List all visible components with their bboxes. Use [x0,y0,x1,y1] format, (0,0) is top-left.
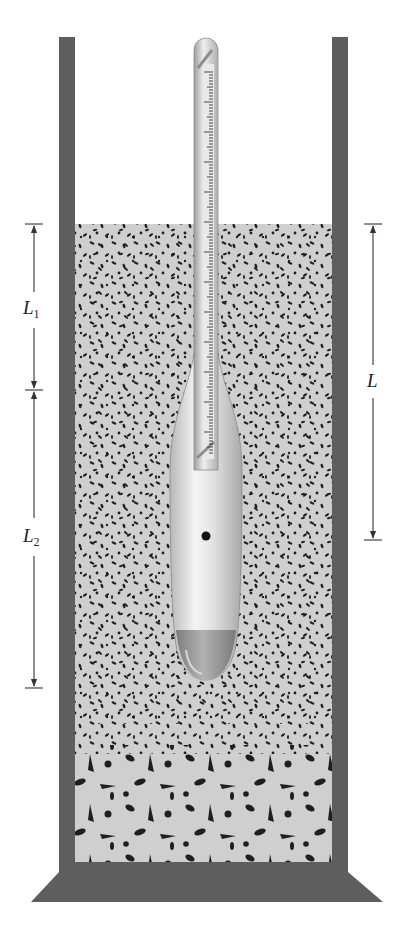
dimension-label-l1: L1 [22,298,41,324]
label-l2-sub: 2 [34,535,40,549]
label-l2-main: L [23,525,34,546]
cylinder-base [31,872,383,902]
diagram-canvas [0,0,404,928]
label-l1-sub: 1 [34,307,40,321]
settled-coarse-particles [75,745,332,871]
cylinder-left-wall [59,37,75,873]
dimension-label-l2: L2 [22,526,41,552]
label-l1-main: L [23,297,34,318]
dimension-label-l: L [366,371,379,391]
center-of-volume-marker [202,532,211,541]
hydrometer-diagram: L1 L2 L [0,0,404,928]
cylinder-right-wall [332,37,348,873]
label-l-main: L [367,370,378,391]
